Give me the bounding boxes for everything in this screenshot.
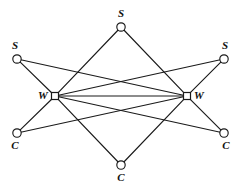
node-s_top[interactable] [117, 23, 125, 31]
edge-c_left-to-w_right [21, 97, 184, 132]
diagram-canvas: SSSWWCCC [0, 0, 240, 192]
edge-c_left-to-w_left [20, 99, 53, 131]
node-c_right[interactable] [220, 129, 228, 137]
label-layer: SSSWWCCC [11, 7, 230, 183]
node-label-w_right: W [194, 89, 205, 101]
node-s_left[interactable] [13, 55, 21, 63]
node-label-s_left: S [12, 39, 18, 51]
node-s_right[interactable] [220, 55, 228, 63]
node-w_right[interactable] [184, 93, 191, 100]
node-label-s_top: S [118, 7, 124, 19]
node-label-c_left: C [11, 139, 19, 151]
node-c_bottom[interactable] [117, 161, 125, 169]
graph-svg: SSSWWCCC [0, 0, 240, 192]
node-c_left[interactable] [13, 129, 21, 137]
node-w_left[interactable] [52, 93, 59, 100]
node-label-c_right: C [222, 139, 230, 151]
edge-c_right-to-w_left [59, 97, 221, 132]
node-label-c_bottom: C [117, 171, 125, 183]
node-label-s_right: S [222, 39, 228, 51]
edge-c_right-to-w_right [190, 99, 222, 131]
node-label-w_left: W [38, 89, 49, 101]
